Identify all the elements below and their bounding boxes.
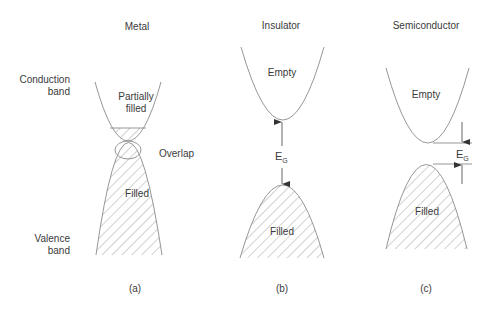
semiconductor-conduction-band-curve	[386, 68, 469, 143]
metal-conduction-label: Partially filled	[118, 91, 154, 115]
insulator-caption: (b)	[276, 283, 288, 295]
semiconductor-valence-label: Filled	[415, 206, 439, 218]
conduction-band-label-line2: band	[4, 86, 70, 98]
semiconductor-caption: (c)	[420, 283, 432, 295]
metal-heading: Metal	[125, 21, 149, 33]
semiconductor-conduction-label: Empty	[412, 89, 440, 101]
filled-label: filled	[118, 103, 154, 115]
insulator-conduction-label: Empty	[268, 67, 296, 79]
valence-band-label-line1: Valence	[4, 233, 70, 245]
metal-caption: (a)	[129, 283, 141, 295]
valence-band-label: Valence band	[4, 233, 70, 257]
insulator-heading: Insulator	[262, 20, 300, 32]
semiconductor-gap-label: EG	[456, 148, 469, 162]
insulator-conduction-band-curve	[241, 47, 324, 120]
partially-label: Partially	[118, 91, 154, 103]
overlap-label: Overlap	[159, 148, 194, 160]
metal-valence-label: Filled	[125, 188, 149, 200]
band-diagram-canvas	[0, 0, 486, 311]
gap-subscript: G	[282, 157, 287, 164]
insulator-valence-label: Filled	[270, 226, 294, 238]
gap-subscript: G	[463, 155, 468, 162]
conduction-band-label: Conduction band	[4, 74, 70, 98]
valence-band-label-line2: band	[4, 245, 70, 257]
insulator-gap-label: EG	[275, 150, 288, 164]
conduction-band-label-line1: Conduction	[4, 74, 70, 86]
semiconductor-heading: Semiconductor	[393, 20, 460, 32]
